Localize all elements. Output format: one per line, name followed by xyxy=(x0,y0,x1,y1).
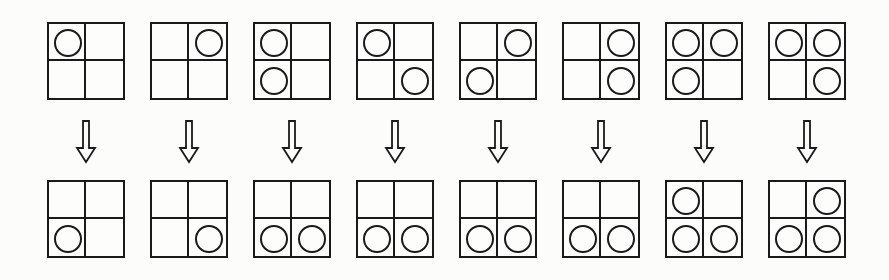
cell-top-right xyxy=(601,24,638,61)
circle-icon xyxy=(401,225,429,253)
cell-bottom-right xyxy=(601,219,638,256)
cell-top-left xyxy=(255,24,292,61)
grid-before xyxy=(150,22,228,100)
circle-icon xyxy=(569,225,597,253)
cell-top-left xyxy=(49,182,86,219)
cell-top-right xyxy=(86,24,123,61)
grid-after xyxy=(768,180,846,258)
circle-icon xyxy=(607,67,635,95)
transformation-pair-3 xyxy=(253,22,331,260)
grid-after xyxy=(150,180,228,258)
cell-top-left xyxy=(667,24,704,61)
down-arrow-icon xyxy=(486,120,510,164)
circle-icon xyxy=(672,67,700,95)
grid-before xyxy=(665,22,743,100)
cell-top-left xyxy=(770,24,807,61)
cell-top-left xyxy=(461,182,498,219)
transformation-pair-7 xyxy=(665,22,743,260)
down-arrow-icon xyxy=(692,120,716,164)
circle-icon xyxy=(298,225,326,253)
cell-top-right xyxy=(292,182,329,219)
cell-bottom-left xyxy=(49,61,86,98)
down-arrow-icon xyxy=(795,120,819,164)
grid-after xyxy=(665,180,743,258)
cell-bottom-left xyxy=(564,219,601,256)
transformation-pair-1 xyxy=(47,22,125,260)
cell-bottom-left xyxy=(358,61,395,98)
cell-bottom-right xyxy=(601,61,638,98)
circle-icon xyxy=(813,225,841,253)
cell-bottom-left xyxy=(152,61,189,98)
cell-bottom-left xyxy=(667,219,704,256)
transformation-pair-8 xyxy=(768,22,846,260)
circle-icon xyxy=(260,29,288,57)
cell-top-left xyxy=(49,24,86,61)
transformation-pair-6 xyxy=(562,22,640,260)
transformation-pair-2 xyxy=(150,22,228,260)
cell-top-left xyxy=(152,24,189,61)
grid-before xyxy=(562,22,640,100)
cell-top-right xyxy=(498,182,535,219)
grid-before xyxy=(459,22,537,100)
circle-icon xyxy=(504,29,532,57)
cell-bottom-left xyxy=(461,61,498,98)
down-arrow-icon xyxy=(280,120,304,164)
cell-bottom-right xyxy=(807,61,844,98)
cell-top-right xyxy=(498,24,535,61)
grid-after xyxy=(562,180,640,258)
cell-top-left xyxy=(358,24,395,61)
grid-before xyxy=(768,22,846,100)
cell-bottom-right xyxy=(395,61,432,98)
grid-before xyxy=(47,22,125,100)
cell-top-right xyxy=(86,182,123,219)
cell-top-left xyxy=(667,182,704,219)
cell-top-right xyxy=(704,182,741,219)
cell-bottom-left xyxy=(152,219,189,256)
cell-bottom-right xyxy=(704,61,741,98)
circle-icon xyxy=(466,225,494,253)
down-arrow-icon xyxy=(74,120,98,164)
circle-icon xyxy=(813,67,841,95)
cell-top-left xyxy=(564,24,601,61)
circle-icon xyxy=(195,225,223,253)
cell-bottom-right xyxy=(292,61,329,98)
cell-bottom-left xyxy=(255,61,292,98)
cell-bottom-left xyxy=(358,219,395,256)
grid-after xyxy=(47,180,125,258)
grid-before xyxy=(253,22,331,100)
transformation-pair-5 xyxy=(459,22,537,260)
circle-icon xyxy=(504,225,532,253)
circle-icon xyxy=(710,225,738,253)
cell-top-left xyxy=(770,182,807,219)
cell-bottom-right xyxy=(807,219,844,256)
circle-icon xyxy=(54,29,82,57)
circle-icon xyxy=(260,67,288,95)
cell-bottom-right xyxy=(86,61,123,98)
cell-bottom-right xyxy=(189,61,226,98)
cell-bottom-right xyxy=(86,219,123,256)
circle-icon xyxy=(672,187,700,215)
circle-icon xyxy=(466,67,494,95)
circle-icon xyxy=(363,225,391,253)
circle-icon xyxy=(775,29,803,57)
circle-icon xyxy=(710,29,738,57)
circle-icon xyxy=(672,29,700,57)
cell-top-right xyxy=(601,182,638,219)
circle-icon xyxy=(775,225,803,253)
grid-after xyxy=(253,180,331,258)
grid-after xyxy=(356,180,434,258)
cell-bottom-left xyxy=(770,219,807,256)
circle-icon xyxy=(672,225,700,253)
circle-icon xyxy=(607,225,635,253)
down-arrow-icon xyxy=(383,120,407,164)
cell-top-right xyxy=(189,24,226,61)
cell-bottom-right xyxy=(395,219,432,256)
down-arrow-icon xyxy=(177,120,201,164)
cell-top-left xyxy=(564,182,601,219)
cell-top-right xyxy=(395,24,432,61)
grid-after xyxy=(459,180,537,258)
cell-bottom-left xyxy=(667,61,704,98)
circle-icon xyxy=(54,225,82,253)
cell-bottom-left xyxy=(255,219,292,256)
cell-top-right xyxy=(807,182,844,219)
